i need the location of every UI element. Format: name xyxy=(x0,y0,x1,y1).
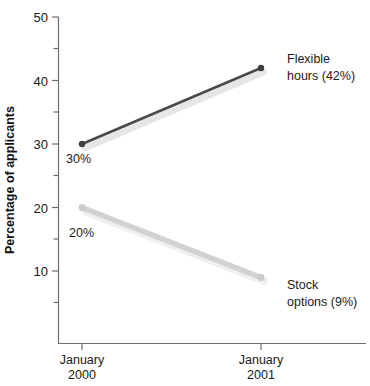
x-tick-label-2000-line2: 2000 xyxy=(68,368,96,382)
series-flexible-hours-end-label-line1: Flexible xyxy=(287,52,330,66)
y-tick-label-20: 20 xyxy=(34,201,48,216)
series-flexible-hours-point-2001 xyxy=(258,65,264,71)
y-tick-label-40: 40 xyxy=(34,74,48,89)
x-tick-label-2001-line2: 2001 xyxy=(247,368,275,382)
x-tick-label-2000-line1: January xyxy=(60,353,105,367)
series-stock-options-end-label-line1: Stock xyxy=(287,278,319,292)
chart-canvas: 50 40 30 20 10 Percentage of applicants … xyxy=(0,0,370,386)
series-flexible-hours-start-label: 30% xyxy=(66,152,91,166)
series-stock-options-end-label-line2: options (9%) xyxy=(287,295,357,309)
series-flexible-hours-end-label-line2: hours (42%) xyxy=(287,69,355,83)
series-stock-options-start-label: 20% xyxy=(69,226,94,240)
series-flexible-hours-shadow xyxy=(85,72,264,148)
y-axis-title: Percentage of applicants xyxy=(3,106,17,254)
series-flexible-hours-point-2000 xyxy=(79,141,85,147)
y-tick-label-50: 50 xyxy=(34,10,48,25)
x-tick-label-2001-line1: January xyxy=(239,353,284,367)
series-stock-options-point-2000 xyxy=(79,204,86,211)
line-chart: 50 40 30 20 10 Percentage of applicants … xyxy=(0,0,370,386)
y-tick-label-10: 10 xyxy=(34,264,48,279)
y-tick-label-30: 30 xyxy=(34,137,48,152)
series-stock-options-point-2001 xyxy=(258,274,265,281)
series-flexible-hours-line xyxy=(82,68,261,144)
series-stock-options-line xyxy=(82,208,261,278)
